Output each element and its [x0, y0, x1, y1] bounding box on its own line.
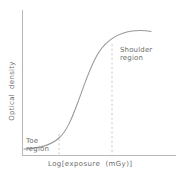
- y-axis-label: Optical density: [8, 61, 16, 121]
- y-axis-label-wrapper: Optical density: [5, 54, 19, 128]
- toe-region-annotation: Toe region: [26, 137, 49, 153]
- x-axis-label: Log[exposure (mGy)]: [48, 160, 132, 168]
- characteristic-curve-figure: Optical density Log[exposure (mGy)] Toe …: [0, 0, 180, 180]
- shoulder-region-annotation: Shoulder region: [120, 46, 152, 62]
